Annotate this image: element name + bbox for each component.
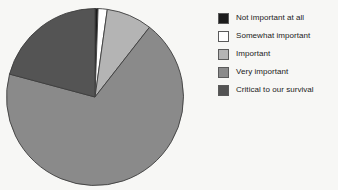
pie-chart-svg bbox=[6, 8, 184, 186]
legend-item-label: Not important at all bbox=[236, 13, 304, 23]
legend-item: Somewhat important bbox=[218, 27, 336, 45]
legend-swatch-important bbox=[218, 49, 229, 60]
pie-chart-figure: Not important at allSomewhat importantIm… bbox=[0, 0, 338, 190]
legend-item-label: Somewhat important bbox=[236, 31, 310, 41]
pie-chart-plot-area bbox=[6, 8, 184, 186]
legend-item: Very important bbox=[218, 63, 336, 81]
legend-item-label: Critical to our survival bbox=[236, 85, 314, 95]
legend-item: Not important at all bbox=[218, 9, 336, 27]
legend-item: Critical to our survival bbox=[218, 81, 336, 99]
chart-legend: Not important at allSomewhat importantIm… bbox=[218, 9, 336, 99]
pie-slice-group bbox=[7, 8, 184, 185]
legend-swatch-somewhat-important bbox=[218, 31, 229, 42]
legend-item-label: Very important bbox=[236, 67, 288, 77]
legend-swatch-not-important-at-all bbox=[218, 13, 229, 24]
legend-swatch-very-important bbox=[218, 67, 229, 78]
legend-swatch-critical-to-our-survival bbox=[218, 85, 229, 96]
legend-item: Important bbox=[218, 45, 336, 63]
legend-item-label: Important bbox=[236, 49, 270, 59]
